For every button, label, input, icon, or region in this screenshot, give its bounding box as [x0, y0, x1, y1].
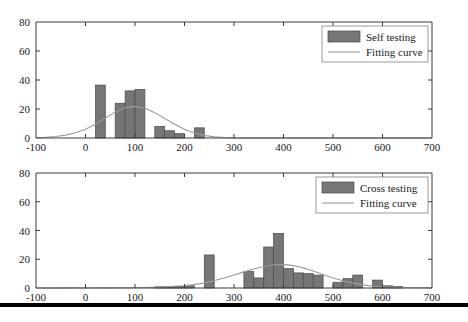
- chart-panel-self-testing: -1000100200300400500600700 020406080 Sel…: [0, 0, 468, 160]
- x-tick-label: 500: [325, 291, 342, 303]
- x-tick-label: 300: [226, 291, 243, 303]
- x-tick-label: 0: [83, 291, 89, 303]
- legend-swatch-bar: [328, 31, 360, 42]
- histogram-bar: [313, 275, 323, 288]
- x-tick-labels: -1000100200300400500600700: [26, 291, 441, 303]
- histogram-bar: [333, 282, 343, 288]
- legend-label-fit: Fitting curve: [366, 46, 423, 58]
- y-tick-label: 20: [19, 253, 31, 265]
- self-testing-histogram-svg: -1000100200300400500600700 020406080 Sel…: [0, 0, 468, 160]
- y-tick-labels: 020406080: [19, 16, 31, 144]
- legend-label-fit: Fitting curve: [360, 197, 417, 209]
- x-tick-label: 200: [176, 291, 193, 303]
- y-tick-label: 0: [25, 282, 31, 294]
- histogram-bar: [293, 273, 303, 288]
- histogram-bar: [244, 271, 254, 288]
- y-tick-label: 20: [19, 103, 31, 115]
- x-tick-label: 700: [424, 291, 441, 303]
- chart-panel-cross-testing: -1000100200300400500600700 020406080 Cro…: [0, 151, 468, 303]
- y-tick-label: 40: [19, 225, 31, 237]
- legend-label-series: Cross testing: [360, 182, 418, 194]
- legend-self-testing: Self testing Fitting curve: [322, 26, 428, 62]
- legend-label-series: Self testing: [366, 31, 416, 43]
- histogram-bar: [175, 134, 185, 138]
- x-tick-label: 100: [127, 291, 144, 303]
- y-tick-label: 0: [25, 132, 31, 144]
- histogram-bar: [155, 126, 165, 138]
- histogram-bar: [254, 278, 264, 288]
- y-tick-label: 40: [19, 74, 31, 86]
- bar-series-cross-testing: [155, 233, 402, 288]
- histogram-bar: [353, 275, 363, 288]
- y-tick-label: 60: [19, 196, 31, 208]
- histogram-bar: [125, 91, 135, 138]
- bottom-divider-rule: [0, 303, 468, 307]
- histogram-bar: [165, 131, 175, 138]
- histogram-bar: [274, 233, 284, 288]
- histogram-bar: [135, 89, 145, 138]
- cross-testing-histogram-svg: -1000100200300400500600700 020406080 Cro…: [0, 151, 468, 303]
- histogram-bar: [284, 269, 294, 288]
- y-tick-labels: 020406080: [19, 167, 31, 294]
- figure-container: -1000100200300400500600700 020406080 Sel…: [0, 0, 468, 322]
- x-tick-label: 600: [374, 291, 391, 303]
- legend-cross-testing: Cross testing Fitting curve: [316, 177, 428, 213]
- y-tick-label: 80: [19, 16, 31, 28]
- histogram-bar: [95, 85, 105, 138]
- legend-swatch-bar: [322, 182, 354, 193]
- y-tick-label: 80: [19, 167, 31, 179]
- histogram-bar: [343, 279, 353, 288]
- x-tick-label: 400: [275, 291, 292, 303]
- histogram-bar: [264, 247, 274, 288]
- y-tick-label: 60: [19, 45, 31, 57]
- histogram-bar: [303, 274, 313, 288]
